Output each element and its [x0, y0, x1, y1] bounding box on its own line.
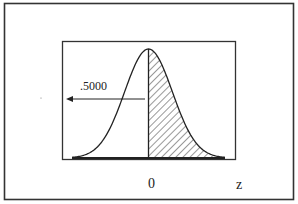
- stray-dot: [40, 97, 41, 98]
- z-axis-label: z: [236, 177, 242, 192]
- area-value-label: .5000: [80, 79, 107, 93]
- shaded-right-tail-area: [149, 49, 226, 158]
- normal-distribution-figure: .5000 0 z: [0, 0, 298, 204]
- area-arrow-head: [66, 96, 73, 102]
- zero-tick-label: 0: [148, 176, 155, 191]
